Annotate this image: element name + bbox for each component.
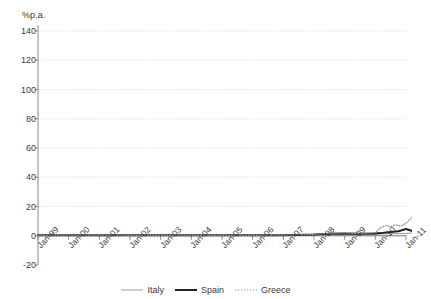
chart-legend: Italy Spain Greece	[0, 285, 412, 295]
legend-swatch-italy	[121, 286, 143, 294]
legend-label-greece: Greece	[261, 285, 291, 295]
y-tick-label: -20	[6, 260, 36, 270]
y-tick-label: 20	[6, 202, 36, 212]
y-tick-label: 60	[6, 143, 36, 153]
legend-swatch-greece	[235, 286, 257, 294]
y-tick-label: 140	[6, 26, 36, 36]
y-tick-label: 100	[6, 85, 36, 95]
legend-item-spain[interactable]: Spain	[175, 285, 224, 295]
legend-item-italy[interactable]: Italy	[121, 285, 164, 295]
legend-label-spain: Spain	[201, 285, 224, 295]
series-line-greece	[38, 56, 412, 235]
legend-item-greece[interactable]: Greece	[235, 285, 291, 295]
y-tick-label: 120	[6, 55, 36, 65]
legend-swatch-spain	[175, 286, 197, 294]
legend-label-italy: Italy	[147, 285, 164, 295]
y-tick-label: 0	[6, 231, 36, 241]
y-tick-label: 40	[6, 172, 36, 182]
y-tick-label: 80	[6, 114, 36, 124]
